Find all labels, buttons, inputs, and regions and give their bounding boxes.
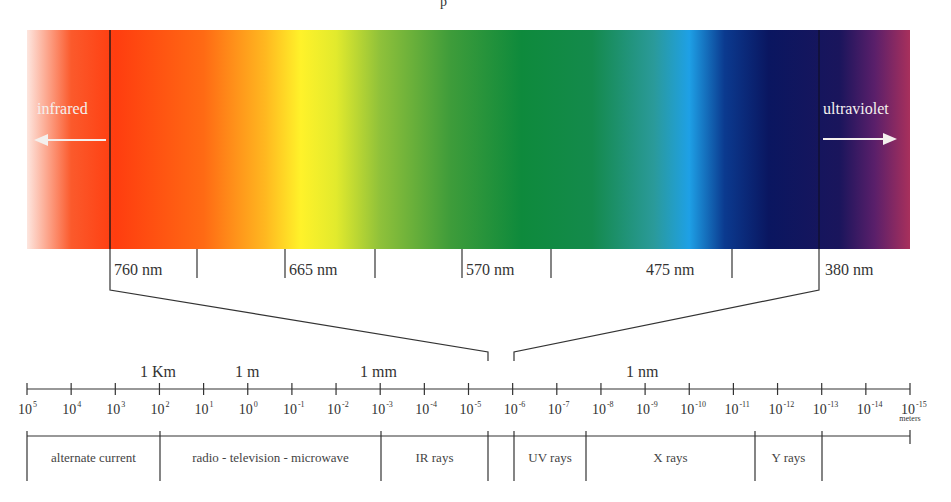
band-label: Y rays: [772, 450, 806, 465]
spectrum-bands: alternate currentradio - television - mi…: [27, 430, 910, 481]
wavelength-665: 665 nm: [289, 261, 338, 278]
axis-tick-label: 104: [62, 400, 81, 417]
axis-tick-label: 10-5: [460, 400, 482, 417]
band-label: alternate current: [51, 450, 136, 465]
unit-mm: 1 mm: [360, 363, 397, 380]
unit-m: 1 m: [235, 363, 260, 380]
unit-nm: 1 nm: [626, 363, 659, 380]
meters-unit-label: meters: [899, 414, 920, 423]
wavelength-380: 380 nm: [825, 261, 874, 278]
axis-tick-label: 10-12: [769, 400, 795, 417]
unit-labels: 1 Km 1 m 1 mm 1 nm: [140, 363, 659, 380]
axis-tick-label: 102: [150, 400, 169, 417]
wavelength-475: 475 nm: [646, 261, 695, 278]
axis-tick-label: 10-14: [857, 400, 883, 417]
axis-tick-label: 101: [195, 400, 214, 417]
visible-spectrum: infrared ultraviolet: [27, 30, 910, 249]
band-labels: alternate currentradio - television - mi…: [51, 450, 805, 465]
band-label: IR rays: [416, 450, 454, 465]
title-fragment: p: [440, 0, 447, 9]
axis-tick-label: 10-3: [371, 400, 393, 417]
wavelength-axis: 10510410310210110010-110-210-310-410-510…: [18, 383, 927, 423]
wavelength-570: 570 nm: [466, 261, 515, 278]
wavelength-760: 760 nm: [114, 261, 163, 278]
axis-tick-label: 10-13: [813, 400, 839, 417]
zoom-connector: [110, 278, 819, 361]
axis-tick-label: 105: [18, 400, 37, 417]
electromagnetic-spectrum-diagram: p infrared ultraviolet 760 nm 665 nm 570…: [0, 0, 951, 502]
axis-tick-label: 10-6: [504, 400, 526, 417]
infrared-label: infrared: [37, 100, 88, 117]
axis-tick-label: 103: [106, 400, 125, 417]
band-label: X rays: [653, 450, 687, 465]
axis-tick-label: 100: [239, 400, 258, 417]
axis-tick-label: 10-11: [724, 400, 749, 417]
axis-tick-labels: 10510410310210110010-110-210-310-410-510…: [18, 400, 927, 417]
axis-tick-label: 10-1: [283, 400, 305, 417]
axis-tick-label: 10-10: [680, 400, 706, 417]
ultraviolet-label: ultraviolet: [823, 100, 889, 117]
axis-ticks: [27, 383, 910, 395]
axis-tick-label: 10-4: [415, 400, 437, 417]
spectrum-gradient: [27, 30, 910, 249]
band-label: radio - television - microwave: [192, 450, 349, 465]
axis-tick-label: 10-7: [548, 400, 570, 417]
axis-tick-label: 10-8: [592, 400, 614, 417]
wavelength-ticks: [110, 249, 819, 278]
axis-tick-label: 10-9: [636, 400, 658, 417]
axis-tick-label: 10-2: [327, 400, 349, 417]
band-label: UV rays: [528, 450, 571, 465]
wavelength-labels: 760 nm 665 nm 570 nm 475 nm 380 nm: [114, 261, 874, 278]
unit-km: 1 Km: [140, 363, 177, 380]
